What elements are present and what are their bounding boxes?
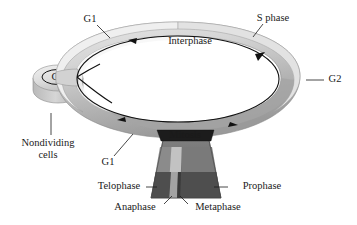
mitosis-block-group: [138, 130, 233, 202]
label-group-g1-top: G1: [84, 13, 110, 38]
label-mitosis: Mitosis: [169, 129, 201, 140]
label-nondividing-line1: Nondividing: [21, 137, 75, 148]
label-group-nondividing-cells: Nondividing cells: [21, 113, 75, 160]
label-group-g1-bottom: G1: [102, 134, 133, 167]
ring-shadow-lower: [106, 78, 294, 131]
label-g1-top: G1: [84, 13, 97, 24]
label-group-anaphase: Anaphase: [114, 196, 172, 212]
label-group-g2: G2: [306, 73, 341, 84]
label-prophase: Prophase: [243, 180, 282, 191]
label-group-telophase: Telophase: [98, 180, 157, 191]
cell-cycle-svg: G0: [0, 0, 357, 225]
label-anaphase: Anaphase: [114, 201, 156, 212]
label-group-prophase: Prophase: [214, 180, 282, 191]
label-nondividing-line2: cells: [38, 149, 57, 160]
label-g2: G2: [329, 73, 342, 84]
leader-g1-bottom: [114, 134, 133, 156]
cell-cycle-figure: G0: [0, 0, 357, 225]
label-group-s-phase: S phase: [253, 12, 290, 37]
label-g1-bottom: G1: [102, 156, 115, 167]
label-group-metaphase: Metaphase: [180, 196, 241, 212]
label-metaphase: Metaphase: [195, 201, 241, 212]
label-telophase: Telophase: [98, 180, 141, 191]
label-interphase: Interphase: [168, 35, 212, 46]
g0-ring-connector: [56, 69, 78, 86]
label-s-phase: S phase: [257, 12, 290, 23]
